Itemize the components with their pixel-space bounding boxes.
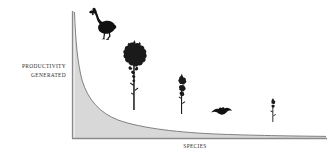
y-axis-label: PRODUCTIVITY GENERATED bbox=[8, 62, 66, 80]
figure-container: PRODUCTIVITY GENERATED SPECIES bbox=[0, 0, 329, 163]
sapling-silhouette bbox=[270, 98, 275, 122]
bat-silhouette bbox=[211, 107, 232, 114]
y-axis-label-line-2: GENERATED bbox=[8, 71, 66, 80]
productivity-species-chart bbox=[0, 0, 329, 163]
cassowary-silhouette bbox=[89, 8, 116, 40]
tree-silhouette bbox=[123, 40, 146, 110]
x-axis-label: SPECIES bbox=[150, 142, 240, 151]
small-tree-silhouette bbox=[178, 74, 186, 114]
y-axis-label-line-1: PRODUCTIVITY bbox=[8, 62, 66, 71]
